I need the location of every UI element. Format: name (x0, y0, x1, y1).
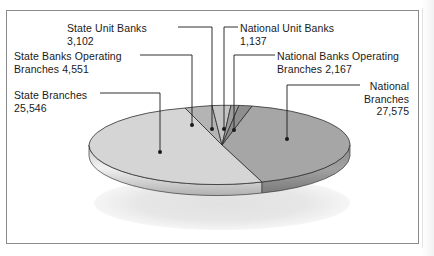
leader-dot-national-banks-operating (232, 128, 236, 132)
label-national-banks-operating-name: National Banks Operating (277, 50, 399, 63)
label-state-branches-name: State Branches (14, 89, 87, 102)
label-national-unit-banks-value: 1,137 (240, 35, 334, 48)
label-state-branches-value: 25,546 (14, 102, 87, 115)
label-national-branches-name: National (364, 80, 409, 93)
pie-chart: State Unit Banks 3,102 State Banks Opera… (0, 0, 434, 256)
leader-dot-national-branches (285, 137, 289, 141)
leader-dot-state-banks-operating (190, 123, 194, 127)
figure-container: State Unit Banks 3,102 State Banks Opera… (0, 0, 434, 256)
label-state-unit-banks: State Unit Banks 3,102 (67, 22, 147, 47)
label-national-branches-name2: Branches (364, 93, 409, 106)
leader-dot-state-unit-banks (210, 127, 214, 131)
leader-dot-state-branches (158, 150, 162, 154)
label-state-banks-operating-name: State Banks Operating (14, 50, 122, 63)
label-national-banks-operating-value: Branches 2,167 (277, 63, 399, 76)
pie-chart-graphic (0, 0, 434, 256)
label-state-branches: State Branches 25,546 (14, 89, 87, 114)
label-national-banks-operating-branches: National Banks Operating Branches 2,167 (277, 50, 399, 75)
label-state-unit-banks-name: State Unit Banks (67, 22, 147, 35)
label-state-banks-operating-value: Branches 4,551 (14, 63, 122, 76)
label-national-unit-banks-name: National Unit Banks (240, 22, 334, 35)
label-national-unit-banks: National Unit Banks 1,137 (240, 22, 334, 47)
label-national-branches: National Branches 27,575 (364, 80, 409, 118)
label-state-banks-operating-branches: State Banks Operating Branches 4,551 (14, 50, 122, 75)
leader-dot-national-unit-banks (222, 127, 226, 131)
label-national-branches-value: 27,575 (364, 105, 409, 118)
label-state-unit-banks-value: 3,102 (67, 35, 147, 48)
